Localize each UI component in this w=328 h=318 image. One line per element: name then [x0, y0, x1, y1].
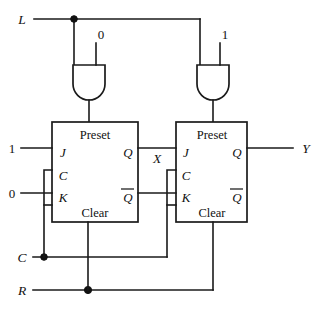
flipflop-2-pin-qbar: Q — [232, 190, 242, 205]
reset-input-label: R — [17, 283, 27, 298]
clock-to-ff1-bracket-top — [44, 170, 52, 257]
flipflop-1-pin-c: C — [59, 168, 68, 183]
and-gate-right-constant-label: 1 — [222, 27, 229, 42]
flipflop-2-pin-k: K — [181, 190, 192, 205]
clock-input-label: C — [17, 250, 27, 265]
flipflop-2-clear-label: Clear — [198, 206, 226, 220]
circuit-svg-canvas: L 0 1 Preset Clear J C K Q Q — [0, 0, 328, 318]
load-input-net: L — [17, 12, 200, 65]
and-gate-left-body — [73, 65, 105, 100]
flipflop-2-pin-c: C — [182, 168, 191, 183]
j1-constant-label: 1 — [9, 141, 16, 156]
and-gate-left: 0 — [73, 27, 105, 122]
and-gate-right-body — [197, 65, 229, 100]
flipflop-1-clear-label: Clear — [81, 206, 109, 220]
circuit-diagram-figure: L 0 1 Preset Clear J C K Q Q — [0, 0, 328, 318]
x-signal-label: X — [152, 151, 162, 166]
y-output-net: Y — [247, 141, 311, 156]
j1-constant-net: 1 — [9, 141, 52, 156]
load-junction-dot — [71, 16, 78, 23]
clock-to-ff2-bracket-top — [167, 170, 176, 257]
load-input-label: L — [17, 12, 26, 27]
flipflop-2: Preset Clear J C K Q Q — [176, 122, 247, 222]
and-gate-right: 1 — [197, 27, 229, 122]
flipflop-2-pin-q: Q — [232, 145, 242, 160]
flipflop-1-pin-q: Q — [123, 145, 133, 160]
flipflop-1-pin-qbar: Q — [123, 190, 133, 205]
k1-constant-label: 0 — [9, 186, 16, 201]
flipflop-1-pin-k: K — [58, 190, 69, 205]
k1-constant-net: 0 — [9, 186, 52, 201]
flipflop-2-preset-label: Preset — [197, 128, 228, 142]
x-interconnect-net: X — [138, 148, 176, 166]
flipflop-1: Preset Clear J C K Q Q — [52, 122, 138, 222]
flipflop-1-preset-label: Preset — [80, 128, 111, 142]
and-gate-left-constant-label: 0 — [98, 27, 105, 42]
y-output-label: Y — [302, 141, 311, 156]
